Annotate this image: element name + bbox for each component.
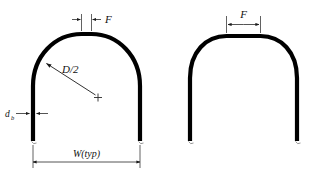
radius-label: D/2: [61, 63, 79, 75]
canvas-background: [0, 0, 325, 178]
arch-dimension-diagram: F D/2 d b W(typ): [0, 0, 325, 178]
left-f-label: F: [104, 13, 112, 25]
figure-container: F D/2 d b W(typ): [0, 0, 325, 178]
width-label: W(typ): [73, 148, 101, 160]
db-label: d: [5, 109, 10, 119]
right-f-label: F: [239, 8, 247, 20]
